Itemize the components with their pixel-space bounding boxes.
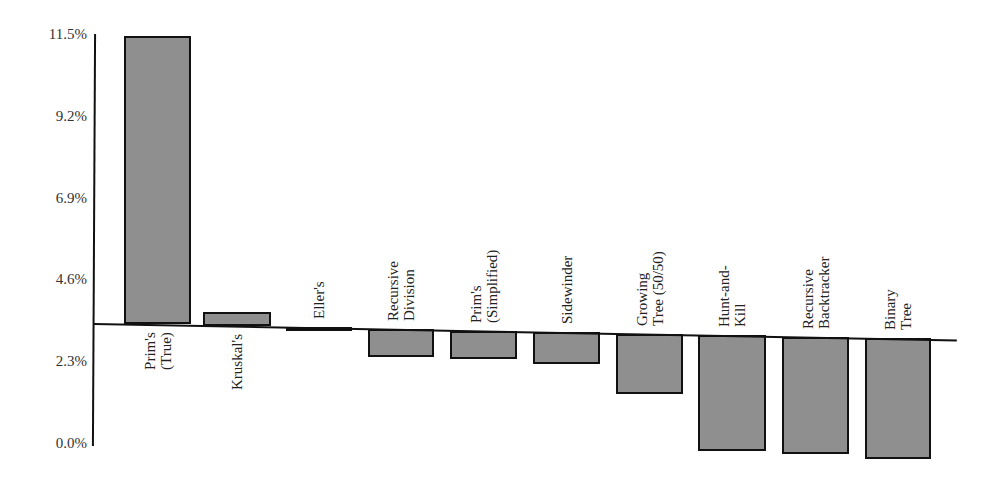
bar (616, 334, 683, 394)
bar-chart: 0.0%2.3%4.6%6.9%9.2%11.5% Prim's (True)K… (0, 0, 991, 484)
category-label: Growing Tree (50/50) (634, 251, 666, 326)
y-tick-label: 4.6% (7, 271, 87, 288)
bar (782, 337, 849, 454)
category-label: Sidewinder (559, 256, 575, 324)
category-label: Prim's (Simplified) (468, 249, 500, 322)
y-axis (92, 34, 96, 446)
category-label: Eller's (311, 282, 327, 320)
y-tick-label: 11.5% (7, 26, 87, 43)
category-label: Kruskal's (229, 334, 245, 390)
y-tick-label: 6.9% (7, 190, 87, 207)
y-tick-label: 9.2% (7, 108, 87, 125)
bar (533, 332, 600, 364)
bar (368, 329, 434, 357)
category-label: Prim's (True) (142, 333, 174, 371)
bar (203, 312, 271, 326)
category-label: Hunt-and- Kill (716, 266, 748, 328)
bar (698, 335, 766, 451)
bar (865, 338, 931, 459)
category-label: Recursive Backtracker (800, 256, 832, 328)
bar (124, 36, 191, 324)
y-tick-label: 2.3% (7, 353, 87, 370)
category-label: Recursive Division (385, 261, 417, 321)
category-label: Binary Tree (882, 290, 914, 331)
bar (450, 331, 517, 359)
y-tick-label: 0.0% (7, 435, 87, 452)
